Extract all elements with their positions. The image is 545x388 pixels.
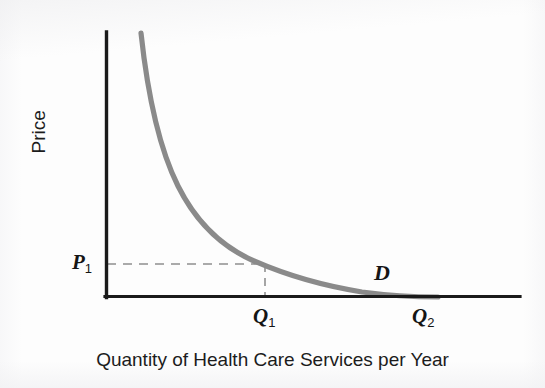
plot-area xyxy=(0,0,545,388)
quantity-q1-subscript: 1 xyxy=(268,315,275,330)
demand-curve xyxy=(141,33,438,297)
quantity-q1-label: Q1 xyxy=(253,306,275,329)
quantity-q2-subscript: 2 xyxy=(427,315,434,330)
price-p1-subscript: 1 xyxy=(85,261,92,276)
price-p1-label: P1 xyxy=(72,252,92,275)
y-axis-title-text: Price xyxy=(29,110,48,153)
demand-curve-label: D xyxy=(374,262,390,284)
quantity-q2-label: Q2 xyxy=(412,306,434,329)
y-axis-title: Price xyxy=(29,132,48,154)
quantity-q2-letter: Q xyxy=(412,304,427,328)
quantity-q1-letter: Q xyxy=(253,304,268,328)
price-p1-letter: P xyxy=(72,250,85,274)
demand-curve-figure: Price Quantity of Health Care Services p… xyxy=(0,0,545,388)
x-axis-title: Quantity of Health Care Services per Yea… xyxy=(0,350,545,369)
